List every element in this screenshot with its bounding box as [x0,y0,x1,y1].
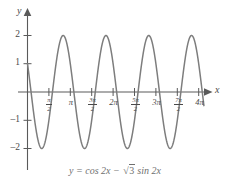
coordinate-plot [0,0,230,182]
x-tick-label-pi: π [64,98,78,107]
x-axis [18,88,213,96]
y-tick-label-2: 2 [6,30,20,40]
y-axis-arrowhead [24,8,32,16]
y-axis-label: y [17,6,21,16]
figure-caption: y = cos 2x − √3 sin 2x [0,165,230,176]
fraction-pi-over-2: π 2 [46,97,51,112]
caption-trail: sin 2x [135,165,161,176]
x-tick-label-5pi-over-2: 5π 2 [127,97,144,112]
y-tick-label-1: 1 [6,58,20,68]
square-root-symbol: √3 [122,165,135,176]
x-tick-label-4pi: 4π [191,98,208,107]
x-tick-label-7pi-over-2: 7π 2 [170,97,187,112]
x-axis-label: x [215,85,219,95]
y-tick-label-neg2: –2 [3,143,20,153]
caption-lead: y = cos 2x − [69,165,122,176]
fraction-7pi-over-2: 7π 2 [174,97,183,112]
x-tick-label-pi-over-2: π 2 [42,97,56,112]
x-tick-label-3pi-over-2: 3π 2 [84,97,101,112]
radical-sign: √ [123,165,129,176]
fraction-5pi-over-2: 5π 2 [131,97,140,112]
x-tick-label-2pi: 2π [105,98,122,107]
x-axis-arrowhead [204,88,213,96]
figure-graph-panel: 2 1 –1 –2 π 2 π 3π 2 2π 5π 2 3π 7π 2 [0,0,230,182]
x-tick-label-3pi: 3π [148,98,165,107]
y-tick-label-neg1: –1 [3,115,20,125]
radicand: 3 [129,164,135,176]
fraction-3pi-over-2: 3π 2 [88,97,97,112]
